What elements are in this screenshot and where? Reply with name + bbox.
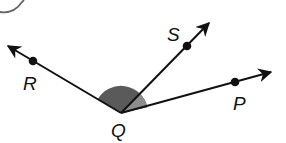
- label-q: Q: [111, 120, 126, 141]
- corner-circle-arc: [0, 0, 24, 12]
- angle-diagram: R S P Q: [0, 0, 286, 143]
- point-r: [29, 57, 38, 66]
- label-p: P: [233, 93, 246, 114]
- ray-qs: [121, 23, 209, 113]
- label-s: S: [167, 24, 180, 45]
- point-p: [231, 78, 240, 87]
- ray-qp: [121, 72, 271, 113]
- point-s: [183, 42, 192, 51]
- label-r: R: [23, 73, 37, 94]
